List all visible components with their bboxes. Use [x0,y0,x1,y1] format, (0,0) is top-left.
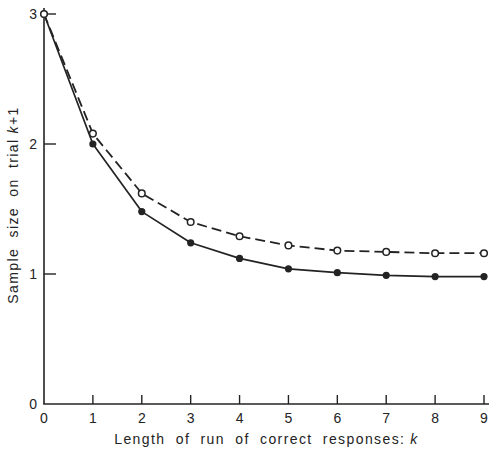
x-tick-label: 9 [480,410,488,426]
series-solid-filled-circles-line [44,14,484,277]
y-axis-title-text: Sample size on trial [5,139,21,304]
data-point-dashed-open-circles [41,11,48,18]
y-axis-title-variable: k [5,125,21,133]
y-axis-title: Sample size on trialk+1 [5,106,21,303]
data-point-dashed-open-circles [138,190,145,197]
x-axis-title-text: Length of run of correct responses: [114,431,405,447]
x-tick-label: 6 [333,410,341,426]
data-point-solid-filled-circles [89,140,96,147]
y-axis-title-variable-suffix: +1 [5,106,21,125]
x-tick-label: 0 [40,410,48,426]
x-tick-label: 3 [187,410,195,426]
data-point-dashed-open-circles [334,247,341,254]
data-point-solid-filled-circles [432,273,439,280]
x-tick-label: 2 [138,410,146,426]
x-tick-label: 5 [285,410,293,426]
data-point-solid-filled-circles [187,239,194,246]
data-point-dashed-open-circles [236,233,243,240]
x-tick-label: 1 [89,410,97,426]
x-tick-label: 7 [382,410,390,426]
series-dashed-open-circles-line [44,14,484,253]
data-point-solid-filled-circles [138,208,145,215]
data-point-solid-filled-circles [480,273,487,280]
x-tick-label: 8 [431,410,439,426]
data-point-solid-filled-circles [285,265,292,272]
data-point-dashed-open-circles [285,242,292,249]
data-point-dashed-open-circles [90,130,97,137]
y-tick-label: 0 [29,396,37,412]
x-axis-title: Length of run of correct responses:k [44,431,489,447]
x-tick-label: 4 [236,410,244,426]
y-tick-label: 1 [29,266,37,282]
data-point-dashed-open-circles [432,250,439,257]
data-point-dashed-open-circles [481,250,488,257]
data-point-solid-filled-circles [236,255,243,262]
y-tick-label: 2 [29,136,37,152]
x-axis-title-variable: k [410,431,418,447]
data-point-solid-filled-circles [383,272,390,279]
data-point-solid-filled-circles [334,269,341,276]
data-point-dashed-open-circles [383,249,390,256]
y-tick-label: 3 [29,6,37,22]
data-point-dashed-open-circles [187,219,194,226]
line-chart-canvas: 01234567890123 [0,0,501,455]
figure-line-chart: 01234567890123 Length of run of correct … [0,0,501,455]
